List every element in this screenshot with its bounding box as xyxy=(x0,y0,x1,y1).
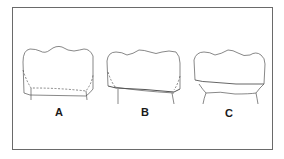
tooth-b-root-right xyxy=(172,93,174,104)
tooth-b xyxy=(107,50,180,104)
tooth-c-crown-outline xyxy=(194,50,265,84)
tooth-b-margin-line-1 xyxy=(108,86,180,92)
tooth-diagram xyxy=(0,0,284,159)
tooth-a-root-right xyxy=(86,91,87,100)
tooth-c-margin-line xyxy=(195,80,264,84)
tooth-c-root-left xyxy=(203,93,206,104)
panel-label-b: B xyxy=(135,107,155,118)
tooth-a-crown-outline xyxy=(23,46,93,96)
panel-label-a: A xyxy=(49,107,69,118)
tooth-c-root-right xyxy=(256,93,258,104)
tooth-c-neck-line xyxy=(199,84,264,94)
tooth-c xyxy=(194,50,265,104)
tooth-a-dashed-line xyxy=(23,70,93,91)
tooth-b-dashed-left xyxy=(108,72,116,88)
panel-label-c: C xyxy=(219,108,239,119)
tooth-b-dashed-right xyxy=(174,76,180,90)
tooth-b-crown-outline xyxy=(107,50,180,89)
tooth-a xyxy=(23,46,93,100)
